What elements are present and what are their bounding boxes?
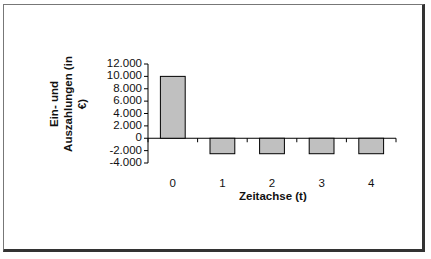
bar [309, 138, 334, 153]
bar [260, 138, 285, 153]
bar [359, 138, 384, 153]
plot-area [0, 0, 431, 259]
bar [160, 76, 185, 138]
bar [210, 138, 235, 153]
